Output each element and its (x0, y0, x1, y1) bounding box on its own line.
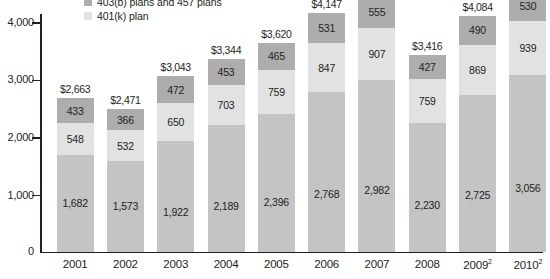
segment-value-label: 2,189 (213, 200, 238, 212)
plot-area: 4335481,682$2,6633665321,573$2,471472650… (40, 0, 543, 253)
x-axis-label-2005: 2005 (252, 258, 301, 270)
bar-2004[interactable]: 4537032,189$3,344 (208, 59, 245, 252)
bar-total-label-2005: $3,620 (261, 28, 291, 40)
bar-2002[interactable]: 3665321,573$2,471 (107, 109, 144, 251)
segment-value-label: 650 (167, 116, 184, 128)
bar-2007[interactable]: 5559072,982 (358, 0, 395, 252)
segment-value-label: 531 (318, 22, 335, 34)
x-axis-label-2003: 2003 (151, 258, 200, 270)
segment-value-label: 548 (67, 133, 84, 145)
x-axis-label-2008: 2008 (403, 258, 452, 270)
segment-value-label: 472 (167, 84, 184, 96)
bar-segment-2007-bottom[interactable]: 2,982 (358, 80, 395, 252)
segment-value-label: 453 (218, 66, 235, 78)
x-axis-label-2009: 20092 (453, 258, 502, 271)
bar-segment-2009-403b-457[interactable]: 490 (459, 16, 496, 44)
bar-2006[interactable]: 5318472,768$4,147 (308, 13, 345, 252)
bar-segment-2008-401k[interactable]: 759 (409, 79, 446, 123)
x-axis-label-2002: 2002 (101, 258, 150, 270)
bar-segment-2005-403b-457[interactable]: 465 (258, 43, 295, 70)
x-axis-label-2006: 2006 (302, 258, 351, 270)
bar-segment-2003-403b-457[interactable]: 472 (157, 76, 194, 103)
segment-value-label: 907 (368, 48, 385, 60)
bar-segment-2004-401k[interactable]: 703 (208, 85, 245, 125)
bar-total-label-2002: $2,471 (110, 94, 140, 106)
segment-value-label: 759 (268, 86, 285, 98)
y-tick-label-2000: 2,000 (7, 131, 34, 143)
bar-segment-2003-bottom[interactable]: 1,922 (157, 141, 194, 252)
segment-value-label: 703 (218, 99, 235, 111)
bar-total-label-2008: $3,416 (412, 40, 442, 52)
bar-2005[interactable]: 4657592,396$3,620 (258, 43, 295, 251)
bar-segment-2001-bottom[interactable]: 1,682 (57, 155, 94, 252)
bar-segment-2006-403b-457[interactable]: 531 (308, 13, 345, 44)
bar-segment-2009-401k[interactable]: 869 (459, 45, 496, 95)
bar-2010[interactable]: 5309393,056 (509, 0, 546, 252)
bar-total-label-2001: $2,663 (60, 83, 90, 95)
footnote-marker: 2 (538, 258, 542, 265)
bar-segment-2009-bottom[interactable]: 2,725 (459, 95, 496, 252)
y-tick-label-3000: 3,000 (7, 73, 34, 85)
bar-segment-2001-401k[interactable]: 548 (57, 123, 94, 155)
bar-segment-2004-bottom[interactable]: 2,189 (208, 125, 245, 251)
bar-2003[interactable]: 4726501,922$3,043 (157, 76, 194, 251)
segment-value-label: 433 (67, 105, 84, 117)
segment-value-label: 869 (469, 64, 486, 76)
bar-segment-2007-403b-457[interactable]: 555 (358, 0, 395, 28)
bar-segment-2008-bottom[interactable]: 2,230 (409, 123, 446, 251)
bar-segment-2010-bottom[interactable]: 3,056 (509, 75, 546, 251)
bar-segment-2005-401k[interactable]: 759 (258, 70, 295, 114)
y-tick-label-0: 0 (0, 245, 34, 257)
segment-value-label: 555 (368, 6, 385, 18)
x-axis-label-2010: 20102 (503, 258, 550, 271)
bar-2008[interactable]: 4277592,230$3,416 (409, 55, 446, 252)
bar-2001[interactable]: 4335481,682$2,663 (57, 98, 94, 251)
segment-value-label: 1,573 (113, 200, 138, 212)
bar-segment-2005-bottom[interactable]: 2,396 (258, 114, 295, 252)
segment-value-label: 1,922 (163, 206, 188, 218)
y-axis-labels: 4,000 3,000 2,000 1,000 (0, 0, 34, 279)
bar-segment-2008-403b-457[interactable]: 427 (409, 55, 446, 80)
segment-value-label: 366 (117, 114, 134, 126)
bar-segment-2007-401k[interactable]: 907 (358, 28, 395, 80)
segment-value-label: 427 (419, 61, 436, 73)
segment-value-label: 490 (469, 24, 486, 36)
segment-value-label: 2,230 (415, 199, 440, 211)
bar-segment-2002-401k[interactable]: 532 (107, 130, 144, 161)
bar-segment-2001-403b-457[interactable]: 433 (57, 98, 94, 123)
bar-total-label-2003: $3,043 (161, 61, 191, 73)
segment-value-label: 939 (519, 42, 536, 54)
segment-value-label: 2,396 (264, 196, 289, 208)
segment-value-label: 847 (318, 62, 335, 74)
segment-value-label: 465 (268, 50, 285, 62)
segment-value-label: 759 (419, 95, 436, 107)
segment-value-label: 2,982 (364, 184, 389, 196)
bar-total-label-2006: $4,147 (311, 0, 341, 10)
bar-group: 4335481,682$2,6633665321,573$2,471472650… (40, 0, 543, 253)
bar-segment-2006-401k[interactable]: 847 (308, 43, 345, 92)
segment-value-label: 1,682 (63, 197, 88, 209)
bar-segment-2004-403b-457[interactable]: 453 (208, 59, 245, 85)
x-axis-label-2007: 2007 (352, 258, 401, 270)
footnote-marker: 2 (488, 258, 492, 265)
bar-segment-2002-403b-457[interactable]: 366 (107, 109, 144, 130)
bar-segment-2002-bottom[interactable]: 1,573 (107, 161, 144, 252)
x-axis-label-2001: 2001 (51, 258, 100, 270)
bar-segment-2006-bottom[interactable]: 2,768 (308, 92, 345, 251)
bar-segment-2010-401k[interactable]: 939 (509, 21, 546, 75)
y-tick-label-1000: 1,000 (7, 189, 34, 201)
x-axis-labels: 2001200220032004200520062007200820092201… (40, 256, 543, 279)
segment-value-label: 530 (519, 0, 536, 12)
segment-value-label: 2,768 (314, 188, 339, 200)
segment-value-label: 2,725 (465, 189, 490, 201)
segment-value-label: 532 (117, 140, 134, 152)
bar-2009[interactable]: 4908692,725$4,084 (459, 16, 496, 251)
x-axis-label-2004: 2004 (202, 258, 251, 270)
segment-value-label: 3,056 (515, 182, 540, 194)
bar-segment-2003-401k[interactable]: 650 (157, 103, 194, 140)
bar-total-label-2009: $4,084 (462, 1, 492, 13)
bar-segment-2010-403b-457[interactable]: 530 (509, 0, 546, 21)
bar-total-label-2004: $3,344 (211, 44, 241, 56)
y-tick-label-4000: 4,000 (7, 16, 34, 28)
